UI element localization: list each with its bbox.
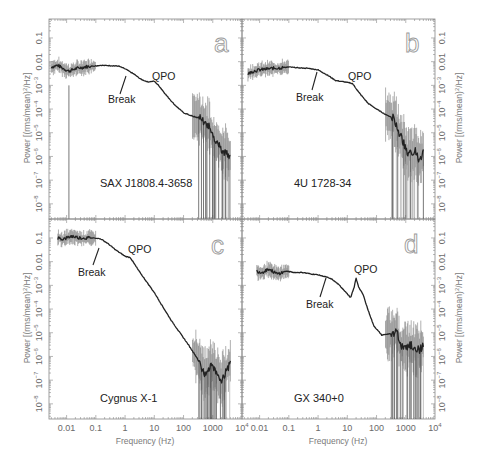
source-name: GX 340+0 [294, 392, 344, 404]
y-tick-label: 10−4 [436, 300, 447, 318]
panel-letter: d [404, 229, 418, 259]
y-tick-label: 10−6 [436, 347, 447, 365]
break-pointer [93, 248, 99, 265]
x-tick-label: 0.1 [90, 423, 103, 433]
panel-letter: b [405, 28, 419, 58]
y-axis-title: Power [(rms/mean)2/Hz] [22, 73, 32, 164]
x-tick-label: 0.1 [283, 423, 296, 433]
panel-d: d Break QPO GX 340+0 0.10.0110−310−410−5… [242, 219, 464, 446]
break-label: Break [296, 91, 324, 103]
power-spectra-figure: a Break QPO SAX J1808.4-3658 0.10.0110−3… [0, 0, 480, 459]
qpo-label: QPO [348, 70, 371, 82]
x-tick-label: 104 [235, 422, 249, 433]
y-axis-right: 0.10.0110−310−410−510−610−710−8 [436, 32, 447, 213]
break-label: Break [108, 93, 136, 105]
qpo-label: QPO [128, 243, 151, 255]
y-tick-label: 10−4 [436, 100, 447, 118]
y-tick-label: 10−8 [33, 395, 44, 413]
error-bars [248, 59, 423, 219]
y-tick-label: 0.01 [34, 253, 44, 271]
y-axis-right: 0.10.0110−310−410−510−610−710−8 [436, 232, 447, 413]
x-tick-label: 0.01 [251, 423, 269, 433]
x-tick-label: 10 [149, 423, 159, 433]
y-tick-label: 10−4 [33, 300, 44, 318]
x-tick-label: 1000 [203, 423, 223, 433]
x-axis-title: Frequency (Hz) [309, 436, 368, 446]
y-tick-label: 0.01 [437, 253, 447, 271]
source-name: SAX J1808.4-3658 [100, 177, 192, 189]
y-tick-label: 10−3 [436, 276, 447, 294]
panel-c: c Break QPO Cygnus X-1 0.10.0110−310−410… [22, 219, 249, 446]
y-tick-label: 10−7 [33, 371, 44, 389]
break-pointer [120, 76, 126, 94]
y-tick-label: 10−6 [33, 147, 44, 165]
y-axis-title: Power [(rms/mean)2/Hz] [454, 73, 464, 164]
x-axis-title: Frequency (Hz) [116, 436, 175, 446]
y-tick-label: 10−5 [33, 124, 44, 142]
y-tick-label: 10−7 [436, 171, 447, 189]
break-label: Break [78, 266, 106, 278]
y-tick-label: 0.1 [34, 232, 44, 245]
y-tick-label: 10−8 [33, 195, 44, 213]
y-tick-label: 10−6 [33, 347, 44, 365]
x-tick-label: 10 [342, 423, 352, 433]
y-tick-label: 10−7 [33, 171, 44, 189]
x-tick-label: 104 [428, 422, 442, 433]
y-tick-label: 10−3 [33, 276, 44, 294]
panel-b: b Break QPO 4U 1728-34 0.10.0110−310−410… [242, 19, 464, 219]
break-pointer [312, 72, 317, 90]
y-axis-left: 0.10.0110−310−410−510−610−710−8 [33, 232, 44, 413]
y-tick-label: 10−5 [436, 324, 447, 342]
power-spectrum-curve [248, 66, 423, 161]
break-label: Break [306, 298, 334, 310]
error-bars [58, 229, 231, 419]
x-tick-label: 100 [176, 423, 191, 433]
error-bars [51, 57, 230, 219]
y-tick-label: 10−5 [436, 124, 447, 142]
y-tick-label: 10−3 [33, 76, 44, 94]
x-tick-label: 100 [369, 423, 384, 433]
source-name: 4U 1728-34 [294, 177, 352, 189]
panel-letter: a [214, 28, 229, 58]
qpo-label: QPO [152, 70, 175, 82]
y-tick-label: 10−8 [436, 395, 447, 413]
x-tick-label: 1000 [396, 423, 416, 433]
x-tick-label: 0.01 [58, 423, 76, 433]
y-axis-title: Power [(rms/mean)2/Hz] [454, 273, 464, 364]
y-tick-label: 0.01 [437, 53, 447, 71]
break-pointer [320, 278, 326, 297]
y-tick-label: 0.01 [34, 53, 44, 71]
y-tick-label: 0.1 [437, 232, 447, 245]
panel-letter: c [211, 230, 224, 260]
panel-a: a Break QPO SAX J1808.4-3658 0.10.0110−3… [22, 19, 242, 219]
x-tick-label: 1 [123, 423, 128, 433]
y-tick-label: 0.1 [437, 32, 447, 45]
y-tick-label: 10−7 [436, 371, 447, 389]
y-tick-label: 10−8 [436, 195, 447, 213]
x-axis: 0.010.11101001000104 [58, 422, 250, 433]
power-spectrum-curve [257, 269, 424, 354]
y-tick-label: 10−5 [33, 324, 44, 342]
qpo-label: QPO [354, 263, 377, 275]
y-tick-label: 10−6 [436, 147, 447, 165]
y-axis-left: 0.10.0110−310−410−510−610−710−8 [33, 32, 44, 213]
source-name: Cygnus X-1 [100, 392, 157, 404]
x-tick-label: 1 [316, 423, 321, 433]
x-axis: 0.010.11101001000104 [251, 422, 443, 433]
y-tick-label: 10−4 [33, 100, 44, 118]
y-tick-label: 10−3 [436, 76, 447, 94]
y-tick-label: 0.1 [34, 32, 44, 45]
y-axis-title: Power [(rms/mean)2/Hz] [22, 273, 32, 364]
